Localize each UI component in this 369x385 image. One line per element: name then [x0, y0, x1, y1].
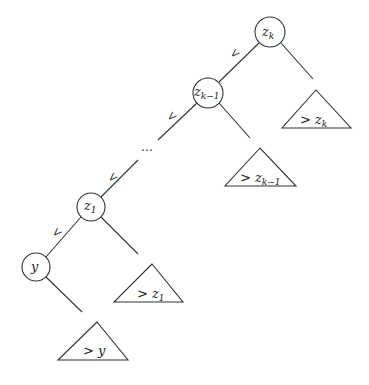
- ellipsis: …: [141, 140, 153, 154]
- edge-y-right: [46, 277, 82, 312]
- subtree-gt-zk-minus-1: >zk−1: [225, 148, 296, 187]
- less-label-1: <: [226, 45, 243, 62]
- edge-zk-right: [281, 43, 313, 79]
- less-label-3: <: [104, 169, 121, 186]
- subtree-gt-y: >y: [58, 322, 128, 360]
- subtree-gt-z1: >z1: [114, 264, 183, 303]
- subtree-gt-zk: >zk: [282, 90, 351, 129]
- node-z1: z1: [77, 193, 105, 221]
- tree-diagram: < < < < … zk zk−1 z1 y >zk >zk−1 >z1 >y: [0, 0, 369, 385]
- edge-zk-zk1: [219, 43, 259, 82]
- less-label-2: <: [163, 108, 180, 125]
- edge-z1-right: [101, 217, 138, 254]
- edge-zk1-right: [219, 103, 250, 138]
- node-zk: zk: [255, 17, 285, 47]
- edge-zk1-ellipsis: [158, 103, 197, 140]
- svg-text:y: y: [30, 259, 39, 274]
- node-zk-minus-1: zk−1: [193, 78, 223, 108]
- node-y: y: [22, 253, 50, 281]
- edge-z1-y: [46, 217, 81, 257]
